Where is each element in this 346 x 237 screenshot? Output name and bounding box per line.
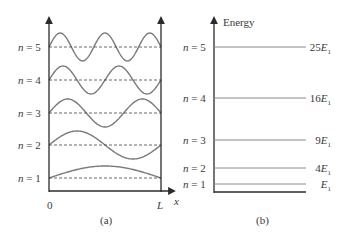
quantum-well-diagram: n = 1n = 2n = 3n = 4n = 5 0 L x (a) Ener…: [0, 0, 346, 237]
energy-value-n3: 9E1: [315, 134, 331, 149]
wavefunctions: [49, 33, 161, 178]
level-label-a-n3: n = 3: [18, 107, 41, 119]
panel-a: n = 1n = 2n = 3n = 4n = 5 0 L x (a): [18, 20, 179, 227]
level-label-b-n5: n = 5: [183, 41, 206, 53]
level-label-b-n1: n = 1: [183, 178, 206, 190]
caption-a: (a): [100, 214, 113, 227]
level-label-b-n2: n = 2: [183, 162, 206, 174]
caption-b: (b): [256, 214, 269, 227]
wavefunction-n1: [49, 166, 161, 178]
level-label-b-n3: n = 3: [183, 134, 206, 146]
energy-value-n4: 16E1: [310, 92, 332, 107]
level-label-a-n4: n = 4: [18, 74, 41, 86]
energy-value-n2: 4E1: [315, 162, 331, 177]
energy-value-n5: 25E1: [310, 41, 332, 56]
level-label-a-n2: n = 2: [18, 139, 41, 151]
energy-value-n1: E1: [320, 178, 332, 193]
panel-b: Energy n = 1E1n = 24E1n = 39E1n = 416E1n…: [183, 16, 332, 227]
level-label-b-n4: n = 4: [183, 92, 206, 104]
level-label-a-n1: n = 1: [18, 172, 41, 184]
length-label: L: [156, 199, 163, 211]
x-axis-label: x: [173, 195, 179, 207]
energy-axis-label: Energy: [223, 16, 255, 28]
level-labels-a: n = 1n = 2n = 3n = 4n = 5: [18, 41, 41, 184]
origin-label: 0: [47, 199, 53, 211]
level-label-a-n5: n = 5: [18, 41, 41, 53]
energy-levels: n = 1E1n = 24E1n = 39E1n = 416E1n = 525E…: [183, 41, 332, 193]
